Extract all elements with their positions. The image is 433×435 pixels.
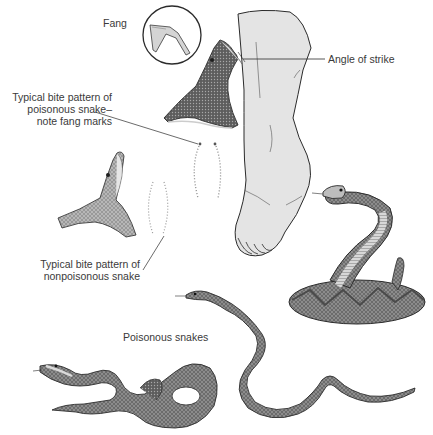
coiled-rattlesnake	[289, 186, 425, 324]
label-nonpoisonous-bite-line1: Typical bite pattern of	[34, 258, 140, 271]
label-poisonous-bite-line1: Typical bite pattern of	[8, 91, 112, 104]
nonpoisonous-bite-leader	[143, 236, 164, 270]
nonpoisonous-bite-pattern	[149, 182, 168, 234]
nonpoisonous-snake-head	[58, 152, 136, 237]
label-angle-of-strike: Angle of strike	[328, 53, 395, 66]
crawling-snake-left	[33, 364, 217, 428]
label-poisonous-snakes: Poisonous snakes	[123, 331, 208, 344]
human-foot	[235, 10, 311, 255]
label-fang: Fang	[103, 17, 127, 30]
snake-bite-diagram: Fang Angle of strike Typical bite patter…	[0, 0, 433, 435]
fang-inset	[143, 6, 201, 64]
label-nonpoisonous-bite-line2: nonpoisonous snake	[34, 270, 140, 283]
poisonous-bite-pattern	[194, 143, 220, 198]
label-poisonous-bite-line3: note fang marks	[8, 115, 112, 128]
label-poisonous-bite-line2: poisonous snake–	[8, 103, 112, 116]
